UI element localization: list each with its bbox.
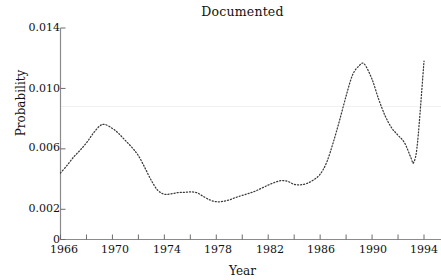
plot-area (0, 0, 441, 280)
y-tick-marks (61, 28, 66, 240)
chart-figure: Documented Probability Year 0.014 0.010 … (0, 0, 441, 280)
data-series-line (61, 61, 425, 202)
x-tick-marks (61, 235, 425, 240)
